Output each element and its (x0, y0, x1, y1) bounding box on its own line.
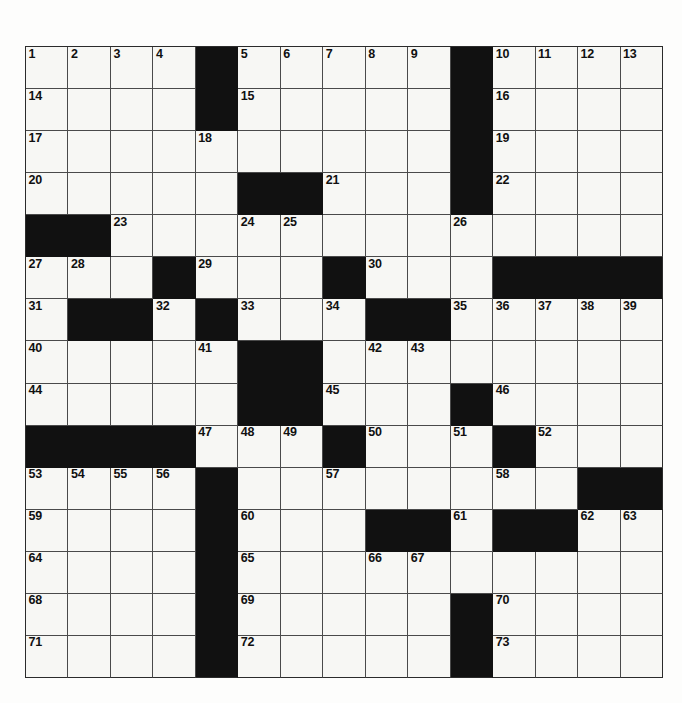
crossword-open-cell[interactable] (621, 131, 663, 173)
crossword-open-cell[interactable]: 8 (366, 47, 408, 89)
crossword-open-cell[interactable]: 69 (238, 594, 280, 636)
crossword-open-cell[interactable]: 9 (408, 47, 450, 89)
crossword-open-cell[interactable]: 52 (536, 426, 578, 468)
crossword-open-cell[interactable] (323, 341, 365, 383)
crossword-open-cell[interactable]: 32 (153, 299, 195, 341)
crossword-open-cell[interactable] (493, 215, 535, 257)
crossword-open-cell[interactable]: 60 (238, 510, 280, 552)
crossword-open-cell[interactable] (111, 89, 153, 131)
crossword-open-cell[interactable]: 62 (578, 510, 620, 552)
crossword-open-cell[interactable]: 16 (493, 89, 535, 131)
crossword-open-cell[interactable] (578, 594, 620, 636)
crossword-open-cell[interactable] (366, 89, 408, 131)
crossword-open-cell[interactable]: 27 (26, 257, 68, 299)
crossword-open-cell[interactable]: 50 (366, 426, 408, 468)
crossword-open-cell[interactable]: 56 (153, 468, 195, 510)
crossword-open-cell[interactable]: 72 (238, 636, 280, 678)
crossword-open-cell[interactable]: 35 (451, 299, 493, 341)
crossword-open-cell[interactable] (451, 257, 493, 299)
crossword-open-cell[interactable]: 46 (493, 384, 535, 426)
crossword-open-cell[interactable] (111, 594, 153, 636)
crossword-open-cell[interactable]: 71 (26, 636, 68, 678)
crossword-open-cell[interactable] (578, 384, 620, 426)
crossword-open-cell[interactable] (281, 636, 323, 678)
crossword-open-cell[interactable]: 39 (621, 299, 663, 341)
crossword-open-cell[interactable] (153, 131, 195, 173)
crossword-open-cell[interactable]: 44 (26, 384, 68, 426)
crossword-open-cell[interactable] (196, 384, 238, 426)
crossword-open-cell[interactable] (578, 173, 620, 215)
crossword-open-cell[interactable] (366, 215, 408, 257)
crossword-open-cell[interactable]: 43 (408, 341, 450, 383)
crossword-open-cell[interactable] (536, 215, 578, 257)
crossword-open-cell[interactable] (408, 426, 450, 468)
crossword-open-cell[interactable]: 13 (621, 47, 663, 89)
crossword-open-cell[interactable] (281, 257, 323, 299)
crossword-open-cell[interactable]: 14 (26, 89, 68, 131)
crossword-open-cell[interactable] (153, 215, 195, 257)
crossword-open-cell[interactable] (196, 215, 238, 257)
crossword-open-cell[interactable] (493, 341, 535, 383)
crossword-open-cell[interactable] (153, 552, 195, 594)
crossword-open-cell[interactable] (111, 384, 153, 426)
crossword-open-cell[interactable] (111, 341, 153, 383)
crossword-open-cell[interactable] (111, 510, 153, 552)
crossword-open-cell[interactable] (578, 341, 620, 383)
crossword-open-cell[interactable] (621, 384, 663, 426)
crossword-open-cell[interactable] (323, 89, 365, 131)
crossword-open-cell[interactable] (621, 636, 663, 678)
crossword-open-cell[interactable] (578, 636, 620, 678)
crossword-open-cell[interactable] (153, 594, 195, 636)
crossword-grid[interactable]: 1234567891011121314151617181920212223242… (25, 46, 663, 678)
crossword-open-cell[interactable]: 4 (153, 47, 195, 89)
crossword-open-cell[interactable] (111, 173, 153, 215)
crossword-open-cell[interactable] (238, 131, 280, 173)
crossword-open-cell[interactable] (366, 131, 408, 173)
crossword-open-cell[interactable] (621, 594, 663, 636)
crossword-open-cell[interactable] (111, 257, 153, 299)
crossword-open-cell[interactable] (451, 468, 493, 510)
crossword-open-cell[interactable]: 36 (493, 299, 535, 341)
crossword-open-cell[interactable]: 29 (196, 257, 238, 299)
crossword-open-cell[interactable] (408, 468, 450, 510)
crossword-open-cell[interactable] (111, 552, 153, 594)
crossword-open-cell[interactable] (281, 510, 323, 552)
crossword-open-cell[interactable] (621, 173, 663, 215)
crossword-open-cell[interactable]: 40 (26, 341, 68, 383)
crossword-open-cell[interactable] (536, 131, 578, 173)
crossword-open-cell[interactable] (493, 552, 535, 594)
crossword-open-cell[interactable] (153, 384, 195, 426)
crossword-open-cell[interactable]: 5 (238, 47, 280, 89)
crossword-open-cell[interactable] (281, 131, 323, 173)
crossword-open-cell[interactable] (323, 594, 365, 636)
crossword-open-cell[interactable] (536, 173, 578, 215)
crossword-open-cell[interactable] (323, 636, 365, 678)
crossword-open-cell[interactable] (196, 173, 238, 215)
crossword-open-cell[interactable]: 65 (238, 552, 280, 594)
crossword-open-cell[interactable] (366, 594, 408, 636)
crossword-open-cell[interactable]: 24 (238, 215, 280, 257)
crossword-open-cell[interactable]: 37 (536, 299, 578, 341)
crossword-open-cell[interactable] (238, 257, 280, 299)
crossword-open-cell[interactable] (323, 552, 365, 594)
crossword-open-cell[interactable] (621, 89, 663, 131)
crossword-open-cell[interactable] (408, 89, 450, 131)
crossword-open-cell[interactable] (238, 468, 280, 510)
crossword-open-cell[interactable] (281, 594, 323, 636)
crossword-open-cell[interactable]: 45 (323, 384, 365, 426)
crossword-open-cell[interactable]: 47 (196, 426, 238, 468)
crossword-open-cell[interactable]: 21 (323, 173, 365, 215)
crossword-open-cell[interactable]: 58 (493, 468, 535, 510)
crossword-open-cell[interactable] (408, 173, 450, 215)
crossword-open-cell[interactable] (408, 257, 450, 299)
crossword-open-cell[interactable]: 66 (366, 552, 408, 594)
crossword-open-cell[interactable]: 15 (238, 89, 280, 131)
crossword-open-cell[interactable]: 57 (323, 468, 365, 510)
crossword-open-cell[interactable] (536, 89, 578, 131)
crossword-open-cell[interactable]: 41 (196, 341, 238, 383)
crossword-open-cell[interactable]: 42 (366, 341, 408, 383)
crossword-open-cell[interactable]: 31 (26, 299, 68, 341)
crossword-open-cell[interactable]: 17 (26, 131, 68, 173)
crossword-open-cell[interactable] (536, 594, 578, 636)
crossword-open-cell[interactable]: 53 (26, 468, 68, 510)
